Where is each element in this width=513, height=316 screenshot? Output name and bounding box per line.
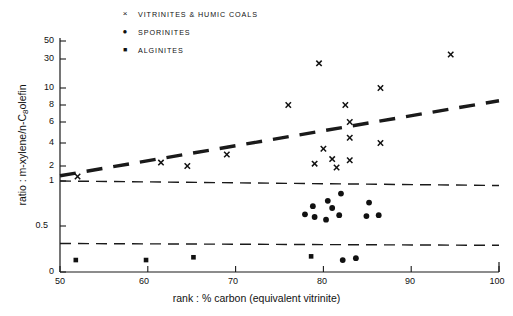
data-point-circle xyxy=(353,255,359,261)
data-point-square xyxy=(74,258,79,263)
data-point-circle xyxy=(338,191,344,197)
data-point-circle xyxy=(323,217,329,223)
data-point-square xyxy=(309,254,314,259)
trend-line-vitrinite-trend xyxy=(60,101,499,176)
plot-area xyxy=(0,0,513,316)
data-point-circle xyxy=(329,205,335,211)
data-point-circle xyxy=(364,213,370,219)
axes xyxy=(60,38,499,272)
data-point-circle xyxy=(376,212,382,218)
data-point-square xyxy=(144,258,149,263)
data-point-circle xyxy=(325,198,331,204)
x-axis-ticks xyxy=(60,266,499,272)
data-point-circle xyxy=(366,200,372,206)
data-point-circle xyxy=(302,211,308,217)
trend-lines xyxy=(60,101,499,246)
series-sporinites-points xyxy=(302,191,382,263)
figure-scatter-plot: × VITRINITES & HUMIC COALS ● SPORINITES … xyxy=(0,0,513,316)
data-point-circle xyxy=(340,257,346,263)
trend-line-lower-boundary xyxy=(60,243,499,245)
data-point-square xyxy=(191,255,196,260)
data-point-circle xyxy=(310,203,316,209)
data-point-circle xyxy=(336,212,342,218)
trend-line-upper-boundary xyxy=(60,181,499,186)
series-alginites-points xyxy=(74,254,314,262)
y-axis-ticks xyxy=(60,41,66,272)
series-vitrinites-points xyxy=(75,52,454,179)
data-point-circle xyxy=(312,214,318,220)
